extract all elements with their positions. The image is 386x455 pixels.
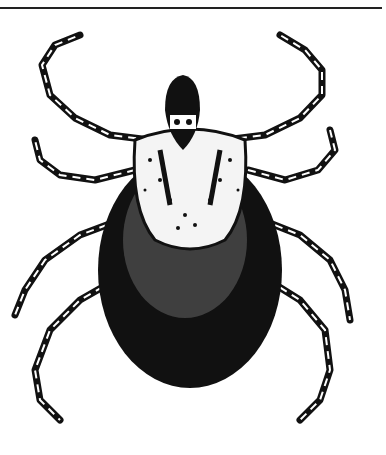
tick-illustration xyxy=(0,0,386,455)
